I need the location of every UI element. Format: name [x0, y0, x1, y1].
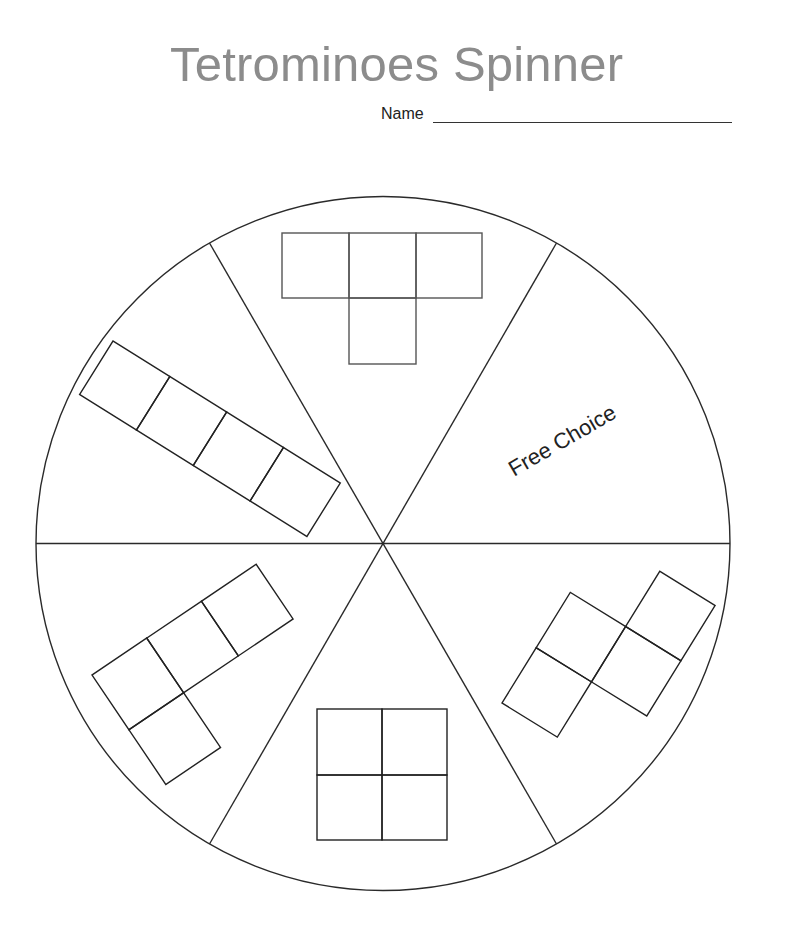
i-cell: [193, 412, 283, 501]
t-tetromino-section[interactable]: [282, 233, 482, 364]
l-cell: [129, 693, 221, 785]
o-cell: [317, 775, 382, 840]
spinner-wheel: Free Choice: [0, 0, 789, 926]
l-cell: [201, 564, 293, 656]
i-tetromino-section[interactable]: [80, 341, 341, 536]
l-cell: [92, 638, 184, 730]
o-cell: [317, 709, 382, 775]
s-cell: [591, 627, 680, 716]
t-cell: [282, 233, 349, 298]
s-tetromino-section[interactable]: [502, 537, 715, 771]
o-cell: [382, 709, 447, 775]
l-cell: [147, 601, 239, 693]
o-cell: [382, 775, 447, 840]
t-cell: [349, 233, 416, 298]
o-tetromino-section[interactable]: [317, 709, 447, 840]
free-choice-label: Free Choice: [504, 400, 620, 482]
i-cell: [136, 377, 226, 466]
t-cell: [349, 298, 416, 364]
t-cell: [416, 233, 482, 298]
i-cell: [80, 341, 170, 430]
s-cell: [502, 648, 591, 737]
s-cell: [536, 592, 625, 681]
i-cell: [250, 448, 340, 537]
s-cell: [626, 571, 715, 660]
free-choice-section[interactable]: Free Choice: [504, 400, 620, 482]
l-tetromino-section[interactable]: [92, 564, 330, 784]
